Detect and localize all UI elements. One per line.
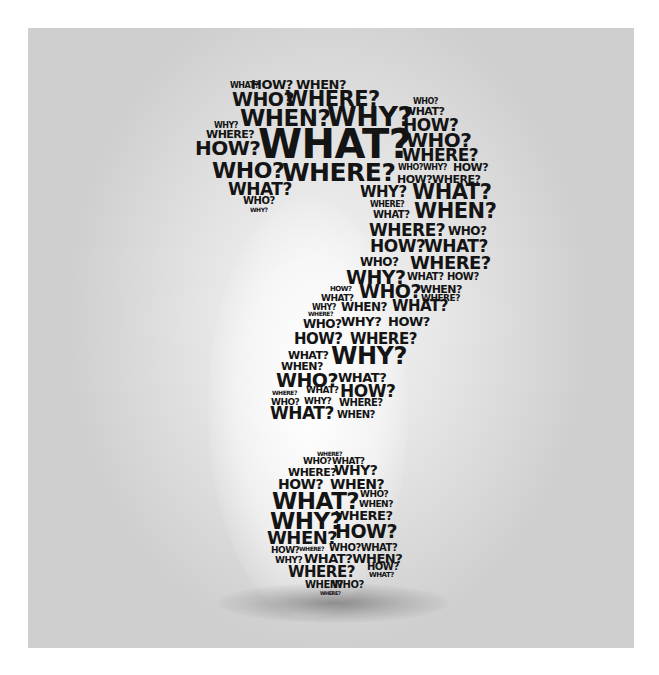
- word: HOW?: [453, 162, 488, 173]
- word: WHAT?: [373, 210, 409, 220]
- word: WHEN?: [337, 410, 375, 420]
- word: WHY?: [250, 207, 267, 213]
- word: WHEN?: [414, 201, 496, 222]
- word: HOW?: [271, 546, 299, 555]
- word: HOW?: [388, 315, 430, 328]
- word: WHERE?: [272, 390, 297, 396]
- word: WHO?WHY?: [398, 164, 447, 172]
- word: WHO?: [243, 196, 275, 206]
- word: WHAT?: [369, 572, 394, 579]
- word: WHAT?: [270, 405, 334, 422]
- word: HOW?: [335, 522, 397, 541]
- word: WHY?: [331, 344, 407, 368]
- word: HOW?: [447, 272, 479, 282]
- word: WHERE?: [282, 160, 395, 185]
- word: WHERE?: [339, 398, 383, 408]
- word: WHY?: [360, 185, 407, 200]
- word: WHO?: [332, 580, 364, 590]
- word: WHERE?: [370, 201, 404, 209]
- word: WHY?: [334, 463, 377, 477]
- word: WHEN?: [341, 301, 387, 313]
- word: WHAT?: [392, 299, 448, 314]
- word: WHO?: [360, 490, 388, 499]
- word: WHO?: [303, 318, 341, 330]
- word: WHERE?: [320, 591, 340, 596]
- word: HOW?: [195, 138, 260, 158]
- word: WHAT?: [306, 386, 339, 395]
- word: HOW?: [330, 286, 352, 293]
- word: WHERE?: [410, 254, 491, 272]
- word: WHY?: [341, 315, 381, 328]
- word: WHERE?: [288, 565, 355, 580]
- word: WHO?: [303, 457, 331, 466]
